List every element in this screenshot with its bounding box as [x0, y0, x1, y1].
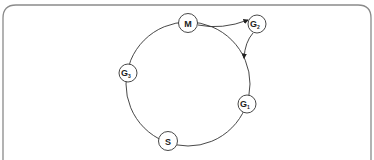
- diagram-canvas: M G2 G3 G1 S: [0, 0, 374, 160]
- node-g3: G3: [119, 64, 137, 82]
- node-m: M: [179, 14, 198, 33]
- edge-m-to-g2: [198, 20, 248, 27]
- node-g2: G2: [248, 15, 266, 33]
- ring-circle: [126, 22, 250, 146]
- svg-text:M: M: [184, 19, 192, 29]
- edge-g2-to-ring: [244, 33, 253, 58]
- svg-text:S: S: [165, 137, 171, 147]
- node-s: S: [159, 132, 178, 151]
- node-g1: G1: [238, 95, 256, 113]
